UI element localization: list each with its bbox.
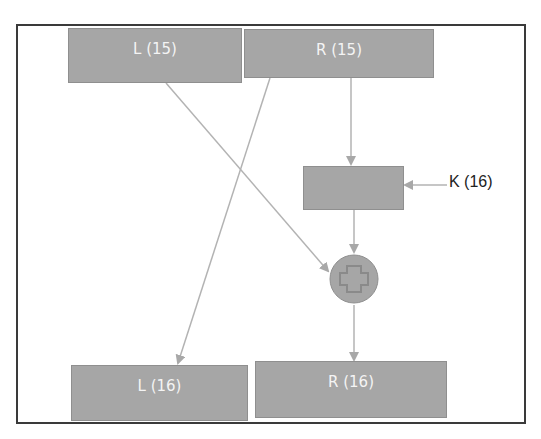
r16-box: R (16) — [255, 361, 447, 418]
edge-r15-to-l16 — [178, 78, 270, 363]
r15-box: R (15) — [244, 29, 434, 78]
l15-box: L (15) — [68, 28, 242, 83]
key-label: K (16) — [449, 173, 493, 191]
l16-box: L (16) — [71, 365, 248, 421]
r16-label: R (16) — [328, 373, 374, 391]
r15-label: R (15) — [316, 41, 362, 59]
f-function-box — [303, 166, 404, 210]
l16-label: L (16) — [138, 377, 182, 395]
l15-label: L (15) — [133, 40, 177, 58]
xor-plus-icon — [330, 255, 378, 303]
